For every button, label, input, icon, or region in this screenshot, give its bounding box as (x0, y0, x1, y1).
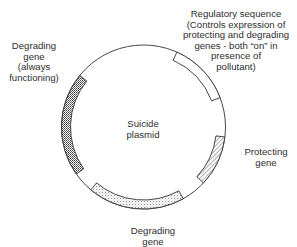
label-line: Degrading (9, 41, 59, 52)
label-line: pollutant) (183, 62, 289, 73)
label-line: gene (244, 158, 287, 169)
label-suicide-plasmid: Suicide plasmid (126, 119, 159, 140)
label-line: Regulatory sequence (183, 9, 289, 20)
label-line: presence of (183, 51, 289, 62)
center-label-line-2: plasmid (126, 130, 159, 141)
label-protecting-gene: Protecting gene (244, 147, 287, 168)
label-degrading-gene: Degrading gene (131, 226, 175, 247)
label-line: Protecting (244, 147, 287, 158)
label-line: gene (131, 237, 175, 247)
segment-protecting-gene (197, 136, 225, 183)
label-degrading-gene-always: Degrading gene (always functioning) (9, 41, 59, 83)
label-line: Degrading (131, 226, 175, 237)
center-label-line-1: Suicide (126, 119, 159, 130)
label-regulatory-sequence: Regulatory sequence (Controls expression… (183, 9, 289, 72)
label-line: functioning) (9, 73, 59, 84)
segment-degrading-gene-always (61, 75, 86, 174)
label-line: (always (9, 62, 59, 73)
label-line: protecting and degrading (183, 30, 289, 41)
segment-degrading-gene (91, 183, 183, 209)
